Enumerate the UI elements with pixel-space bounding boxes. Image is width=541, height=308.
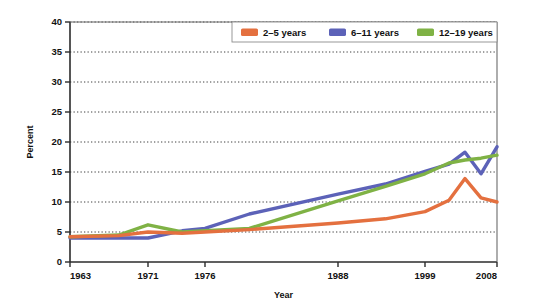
y-tick-label: 40 xyxy=(51,16,62,27)
legend-swatch-1 xyxy=(241,29,258,37)
series-line-2 xyxy=(70,147,497,238)
y-tick-label: 15 xyxy=(51,166,62,177)
series-group xyxy=(70,147,497,238)
y-axis: 0510152025303540 xyxy=(51,16,70,267)
legend: 2–5 years6–11 years12–19 years xyxy=(232,22,497,42)
y-tick-label: 20 xyxy=(51,136,62,147)
x-tick-label: 1999 xyxy=(414,270,435,281)
legend-label-2: 6–11 years xyxy=(351,27,399,38)
legend-label-1: 2–5 years xyxy=(263,27,306,38)
gridlines xyxy=(70,22,497,232)
legend-swatch-3 xyxy=(417,29,434,37)
y-tick-label: 25 xyxy=(51,106,62,117)
legend-label-3: 12–19 years xyxy=(439,27,493,38)
legend-swatch-2 xyxy=(329,29,346,37)
y-tick-label: 0 xyxy=(57,256,62,267)
x-tick-label: 1971 xyxy=(137,270,159,281)
x-tick-label: 1988 xyxy=(327,270,348,281)
y-axis-title: Percent xyxy=(25,125,35,158)
y-tick-label: 35 xyxy=(51,46,62,57)
x-tick-label: 2008 xyxy=(476,270,497,281)
y-tick-label: 30 xyxy=(51,76,62,87)
y-tick-label: 5 xyxy=(57,226,63,237)
line-chart: 0510152025303540196319711976198819992008… xyxy=(0,0,541,308)
x-axis-title: Year xyxy=(274,290,294,300)
x-tick-label: 1963 xyxy=(70,270,91,281)
x-tick-label: 1976 xyxy=(194,270,215,281)
y-tick-label: 10 xyxy=(51,196,62,207)
x-axis: 196319711976198819992008 xyxy=(70,262,497,281)
chart-container: 0510152025303540196319711976198819992008… xyxy=(0,0,541,308)
